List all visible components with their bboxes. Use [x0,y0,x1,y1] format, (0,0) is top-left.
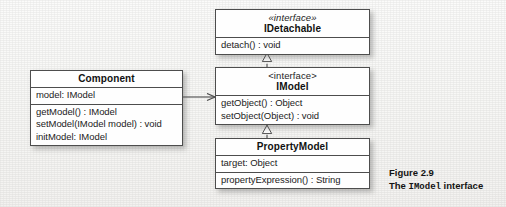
stereotype-label: «interface» [221,12,364,23]
uml-class-diagram: «interface» IDetachable detach() : void … [0,0,506,207]
class-box-imodel[interactable]: <interface> IModel getObject() : Object … [215,67,370,125]
attributes-compartment-propertymodel: target: Object [216,155,369,172]
class-name-label: Component [36,73,177,85]
attribute-item: target: Object [221,157,364,170]
operations-compartment-propertymodel: propertyExpression() : String [216,172,369,189]
operations-compartment-idetachable: detach() : void [216,37,369,54]
operation-item: getObject() : Object [221,97,364,110]
class-box-propertymodel[interactable]: PropertyModel target: Object propertyExp… [215,138,370,189]
operation-item: detach() : void [221,39,364,52]
attribute-item: model: IModel [36,89,177,102]
figure-number: Figure 2.9 [389,167,483,180]
figure-title: The IModel interface [389,180,483,194]
class-header-component: Component [31,71,182,87]
operations-compartment-imodel: getObject() : Object setObject(Object) :… [216,95,369,124]
operations-compartment-component: getModel() : IModel setModel(IModel mode… [31,104,182,146]
class-name-label: IDetachable [221,23,364,35]
class-name-label: PropertyModel [221,141,364,153]
figure-caption: Figure 2.9 The IModel interface [389,167,483,193]
figure-title-prefix: The [389,180,409,191]
class-box-idetachable[interactable]: «interface» IDetachable detach() : void [215,9,370,55]
attributes-compartment-component: model: IModel [31,87,182,104]
stereotype-label: <interface> [221,70,364,81]
operation-item: getModel() : IModel [36,106,177,119]
figure-title-code: IModel [409,182,441,192]
class-name-label: IModel [221,81,364,93]
class-box-component[interactable]: Component model: IModel getModel() : IMo… [30,70,183,146]
figure-title-suffix: interface [441,180,483,191]
operation-item: initModel: IModel [36,131,177,144]
class-header-idetachable: «interface» IDetachable [216,10,369,37]
operation-item: setModel(IModel model) : void [36,118,177,131]
class-header-imodel: <interface> IModel [216,68,369,95]
class-header-propertymodel: PropertyModel [216,139,369,155]
operation-item: propertyExpression() : String [221,174,364,187]
operation-item: setObject(Object) : void [221,110,364,123]
